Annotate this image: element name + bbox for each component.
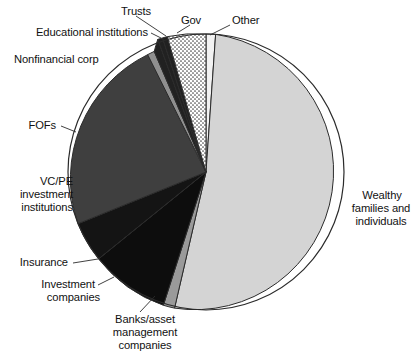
label-wealthy-line3: individuals bbox=[347, 215, 415, 228]
label-educational-institutions: Educational institutions bbox=[0, 26, 148, 39]
label-trusts: Trusts bbox=[101, 5, 171, 18]
leader-line-fofs bbox=[61, 126, 76, 132]
label-vc-pe-line2: investment bbox=[0, 188, 73, 201]
label-investment-companies-line2: companies bbox=[0, 291, 100, 304]
leader-line-insurance bbox=[73, 259, 98, 263]
label-investment-companies-line1: Investment bbox=[0, 278, 95, 291]
leader-line-investment-companies bbox=[98, 277, 114, 285]
label-insurance: Insurance bbox=[0, 256, 68, 269]
label-wealthy-line1: Wealthy bbox=[349, 189, 415, 202]
label-banks-line3: companies bbox=[85, 339, 205, 352]
label-fofs: FOFs bbox=[0, 119, 56, 132]
label-other: Other bbox=[232, 14, 292, 27]
label-wealthy-line2: families and bbox=[347, 202, 415, 215]
label-vc-pe-line3: institutions bbox=[0, 201, 73, 214]
label-banks-line1: Banks/asset bbox=[85, 313, 205, 326]
pie-slices-group bbox=[70, 34, 333, 310]
label-vc-pe-line1: VC/PE bbox=[0, 175, 73, 188]
label-banks-line2: management bbox=[85, 326, 205, 339]
label-nonfinancial-corp: Nonfinancial corp bbox=[14, 53, 144, 66]
label-gov: Gov bbox=[168, 14, 214, 27]
leader-line-educational-institutions bbox=[151, 33, 161, 38]
pie-chart-figure: Trusts Gov Other Educational institution… bbox=[0, 0, 415, 364]
